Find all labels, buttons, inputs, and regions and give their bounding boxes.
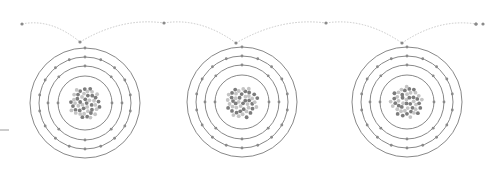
proton (233, 88, 237, 92)
electron (129, 94, 132, 97)
neutron (82, 92, 86, 96)
electron (211, 65, 214, 68)
electron (225, 57, 228, 60)
nucleus (389, 85, 424, 119)
proton (71, 104, 75, 108)
electron (195, 109, 198, 112)
neutron (245, 110, 249, 114)
electron (241, 147, 244, 150)
proton (83, 87, 87, 91)
electron (241, 55, 244, 58)
electron (390, 57, 393, 60)
electron (47, 102, 50, 105)
neutron (400, 88, 404, 92)
proton (252, 92, 256, 96)
neutron (247, 94, 251, 98)
neutron (231, 105, 235, 109)
electron (241, 64, 244, 67)
electron-dot (234, 41, 237, 44)
electron (432, 127, 435, 130)
electron (433, 101, 436, 104)
neutron (406, 106, 410, 110)
electron (406, 138, 409, 141)
neutron (89, 116, 93, 120)
electron (214, 127, 217, 130)
neutron (228, 102, 232, 106)
proton (235, 111, 239, 115)
neutron (414, 107, 418, 111)
electron (432, 74, 435, 77)
neutron (408, 115, 412, 119)
atom-1 (30, 47, 140, 158)
neutron (74, 111, 78, 115)
neutron (234, 106, 238, 110)
proton (78, 109, 82, 113)
electron-dot (324, 21, 327, 24)
proton (408, 102, 412, 106)
proton (412, 95, 416, 99)
neutron (226, 98, 230, 102)
proton (76, 93, 80, 97)
electron (110, 128, 113, 131)
electron (376, 65, 379, 68)
electron (445, 124, 448, 127)
electron (84, 148, 87, 151)
proton (238, 96, 242, 100)
neutron (72, 98, 76, 102)
atom-2 (187, 46, 297, 157)
hop-path-segment (326, 22, 402, 43)
proton (251, 107, 255, 111)
neutron (254, 105, 258, 109)
proton (405, 112, 409, 116)
electron-hop-paths (20, 21, 484, 44)
electron (376, 136, 379, 139)
neutron (93, 103, 97, 107)
electron (211, 136, 214, 139)
electron (57, 102, 60, 105)
electron (195, 93, 198, 96)
electron (57, 75, 60, 78)
neutron (76, 104, 80, 108)
hop-path-segment (164, 22, 236, 43)
electron (241, 46, 244, 49)
neutron (82, 112, 86, 116)
electron (379, 74, 382, 77)
proton (90, 103, 94, 107)
neutron (247, 106, 251, 110)
atom-sequence-diagram (0, 0, 503, 172)
proton (393, 91, 397, 95)
proton (97, 100, 101, 104)
neutron (227, 93, 231, 97)
hop-path-segment (80, 22, 164, 42)
hop-path-segment (402, 23, 476, 43)
proton (226, 106, 230, 110)
electron-dot (400, 41, 403, 44)
electron (360, 109, 363, 112)
electron (123, 79, 126, 82)
proton (85, 101, 89, 105)
proton (89, 111, 93, 115)
proton (78, 89, 82, 93)
electron (421, 57, 424, 60)
neutron (234, 92, 238, 96)
proton (90, 94, 94, 98)
atom-3 (352, 46, 462, 157)
electron (214, 101, 217, 104)
neutron (69, 108, 73, 112)
neutron (88, 98, 92, 102)
proton (85, 115, 89, 119)
electron (280, 124, 283, 127)
atoms (30, 46, 462, 158)
neutron (397, 99, 401, 103)
proton (400, 93, 404, 97)
electron-dot (481, 22, 484, 25)
neutron (93, 112, 97, 116)
electron (268, 101, 271, 104)
proton (83, 97, 87, 101)
proton (86, 94, 90, 98)
proton (230, 91, 234, 95)
electron (256, 144, 259, 147)
proton (69, 100, 73, 104)
electron (435, 65, 438, 68)
proton (243, 99, 247, 103)
